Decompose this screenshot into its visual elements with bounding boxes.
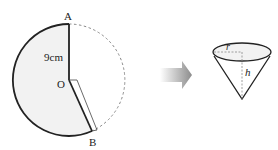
label-a: A (64, 10, 72, 22)
label-radius: 9cm (44, 51, 63, 63)
label-h: h (245, 66, 251, 78)
sector-shape (13, 24, 92, 136)
sector-to-cone-diagram: A 9cm O B r h (0, 0, 278, 150)
arrow-right-icon (160, 61, 192, 89)
label-r: r (226, 41, 230, 52)
label-o: O (57, 78, 65, 90)
label-b: B (89, 136, 96, 148)
